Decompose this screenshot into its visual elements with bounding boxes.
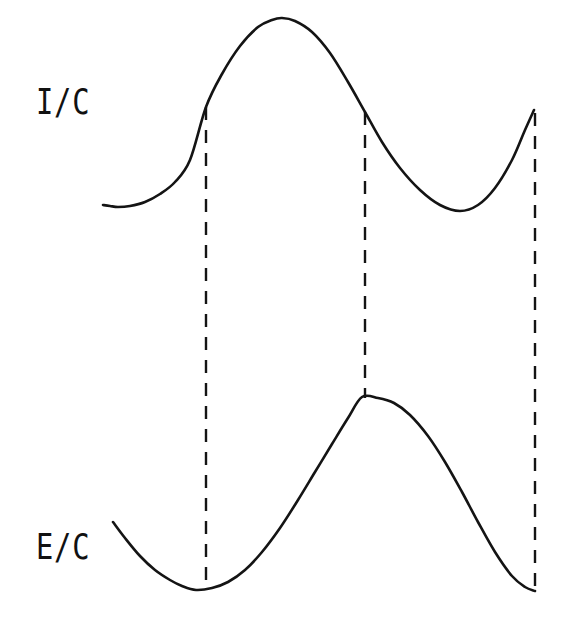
tie-lines-group (206, 107, 535, 592)
upper-trace-label: I/C (36, 85, 90, 120)
lower-trace-label: E/C (36, 530, 90, 565)
upper-curve-ic (103, 18, 534, 211)
waveform-figure: I/C E/C (0, 0, 564, 621)
lower-curve-ec (113, 396, 535, 591)
curves-group (103, 18, 535, 591)
